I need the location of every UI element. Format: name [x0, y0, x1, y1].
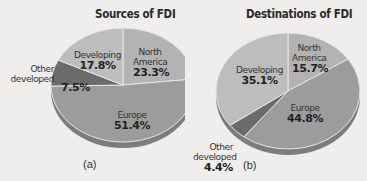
- panel-label-b: (b): [243, 159, 256, 171]
- value-text: 35.1%: [236, 75, 283, 87]
- value-text: 23.3%: [133, 67, 169, 79]
- value-text: 17.8%: [74, 60, 121, 72]
- label-other-developed-b: Other developed 4.4%: [193, 142, 233, 174]
- label-developing-b: Developing 35.1%: [236, 65, 283, 87]
- label-text: North America: [133, 47, 167, 67]
- label-other-developed-a: Other developed: [10, 64, 54, 84]
- label-text: Other developed: [193, 142, 233, 162]
- value-text: 51.4%: [114, 120, 150, 132]
- label-text: North America: [292, 43, 326, 63]
- value-text: 44.8%: [287, 113, 323, 125]
- label-europe-b: Europe 44.8%: [287, 103, 323, 125]
- pie-chart-destinations: [215, 30, 360, 160]
- value-text: 4.4%: [193, 162, 233, 174]
- label-developing-a: Developing 17.8%: [74, 50, 121, 72]
- label-text: Other developed: [11, 64, 54, 84]
- value-text: 15.7%: [292, 63, 328, 75]
- panel-label-a: (a): [83, 158, 96, 170]
- label-north-america-b: North America 15.7%: [292, 43, 328, 75]
- chart-b-title: Destinations of FDI: [246, 7, 352, 21]
- value-other-developed-a: 7.5%: [61, 82, 90, 94]
- label-europe-a: Europe 51.4%: [114, 110, 150, 132]
- label-north-america-a: North America 23.3%: [133, 47, 169, 79]
- chart-a-title: Sources of FDI: [95, 7, 175, 21]
- value-text: 7.5%: [61, 82, 90, 94]
